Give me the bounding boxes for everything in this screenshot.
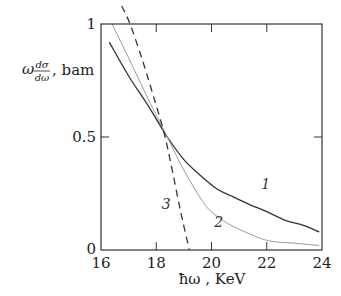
x-tick-label: 22 <box>257 254 276 272</box>
curve-labels: 123 <box>162 176 270 230</box>
svg-text:dω: dω <box>35 72 50 83</box>
svg-text:, bam: , bam <box>52 61 94 79</box>
x-tick-label: 18 <box>147 254 166 272</box>
y-tick-label: 0 <box>86 240 96 258</box>
series-1-label: 1 <box>261 176 270 192</box>
chart: 161820222400.51 123 ħω , KeV ω dσ dω , b… <box>0 0 341 296</box>
series-2-label: 2 <box>213 214 223 230</box>
y-tick-label: 0.5 <box>72 128 96 146</box>
svg-text:dσ: dσ <box>35 59 49 70</box>
series-2-line <box>112 24 319 245</box>
plot-frame <box>101 24 322 250</box>
tick-labels: 161820222400.51 <box>72 15 331 272</box>
x-tick-label: 24 <box>312 254 331 272</box>
series-3-label: 3 <box>162 196 171 212</box>
curves <box>109 6 319 250</box>
axis-ticks <box>101 24 322 250</box>
svg-text:ω: ω <box>22 60 34 78</box>
series-3-line <box>122 6 190 250</box>
y-tick-label: 1 <box>86 15 96 33</box>
series-1-line <box>109 42 319 232</box>
y-axis-label: ω dσ dω , bam <box>22 59 94 83</box>
x-axis-label: ħω , KeV <box>179 270 247 288</box>
